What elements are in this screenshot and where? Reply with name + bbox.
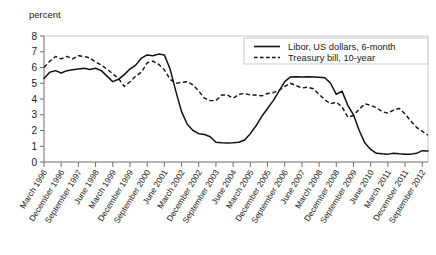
y-axis-ticks: 012345678 <box>31 31 44 168</box>
y-tick-label-5: 5 <box>31 78 37 89</box>
y-tick-label-7: 7 <box>31 46 37 57</box>
interest-rates-line-chart: percent 012345678 March 1996December 199… <box>0 0 436 255</box>
y-tick-label-3: 3 <box>31 109 37 120</box>
chart-container: percent 012345678 March 1996December 199… <box>0 0 436 255</box>
series-line-treasury <box>44 56 428 136</box>
series-line-libor <box>44 54 428 154</box>
legend-label-libor: Libor, US dollars, 6-month <box>288 42 395 52</box>
y-tick-label-0: 0 <box>31 157 37 168</box>
y-tick-label-2: 2 <box>31 125 37 136</box>
legend-label-treasury: Treasury bill, 10-year <box>288 53 375 63</box>
x-axis: March 1996December 1996September 1997Jun… <box>17 162 428 225</box>
x-axis-ticks <box>44 162 422 167</box>
y-tick-label-6: 6 <box>31 62 37 73</box>
y-tick-label-1: 1 <box>31 141 37 152</box>
y-axis: 012345678 <box>31 31 44 168</box>
chart-legend: Libor, US dollars, 6-monthTreasury bill,… <box>244 38 428 64</box>
y-axis-unit-label: percent <box>29 9 61 20</box>
x-axis-tick-labels: March 1996December 1996September 1997Jun… <box>17 167 427 225</box>
y-tick-label-8: 8 <box>31 31 37 42</box>
data-series-group <box>44 54 428 154</box>
y-tick-label-4: 4 <box>31 94 37 105</box>
